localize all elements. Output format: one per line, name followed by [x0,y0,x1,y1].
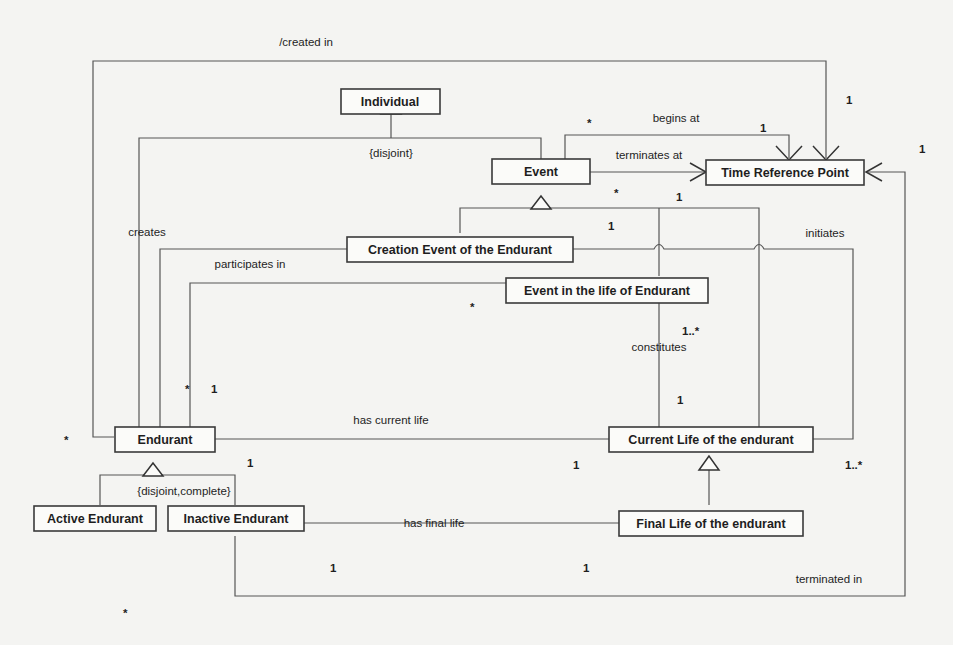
class-time-reference-point[interactable]: Time Reference Point [706,160,864,185]
label-terminated-in: terminated in [796,573,862,585]
svg-text:1: 1 [330,562,337,574]
uml-diagram: Individual Event Time Reference Point Cr… [0,0,953,645]
svg-text:Individual: Individual [361,95,419,109]
class-active-endurant[interactable]: Active Endurant [34,506,156,531]
label-has-final-life: has final life [404,517,465,529]
terminated-in-line [235,172,905,596]
svg-text:1: 1 [211,383,218,395]
participates-in-line [190,283,506,428]
svg-text:1: 1 [677,394,684,406]
svg-text:1: 1 [573,459,580,471]
svg-text:1..*: 1..* [682,325,700,337]
class-event-in-life[interactable]: Event in the life of Endurant [506,278,708,303]
initiates-line [573,245,853,440]
svg-text:Final Life of the endurant: Final Life of the endurant [636,517,786,531]
label-created-in: /created in [279,36,333,48]
svg-text:Event in the life of Endurant: Event in the life of Endurant [524,284,691,298]
label-terminates-at: terminates at [616,149,683,161]
svg-text:*: * [123,607,128,619]
svg-text:1: 1 [760,122,767,134]
svg-text:1..*: 1..* [845,459,863,471]
svg-text:Inactive Endurant: Inactive Endurant [184,512,290,526]
endurant-gen-triangle-icon [143,463,163,476]
class-endurant[interactable]: Endurant [115,427,215,452]
class-inactive-endurant[interactable]: Inactive Endurant [168,506,304,531]
svg-text:1: 1 [247,457,254,469]
svg-text:*: * [587,117,592,129]
label-begins-at: begins at [653,112,700,124]
svg-text:*: * [185,383,190,395]
label-creates: creates [128,226,166,238]
constraint-disjoint: {disjoint} [369,147,413,159]
creates-line [160,249,347,428]
class-creation-event[interactable]: Creation Event of the Endurant [347,237,573,262]
label-initiates: initiates [806,227,845,239]
svg-text:Creation Event of the Endurant: Creation Event of the Endurant [368,243,553,257]
constraint-disjoint-complete: {disjoint,complete} [137,485,230,497]
svg-text:Time Reference Point: Time Reference Point [721,166,849,180]
label-has-current-life: has current life [353,414,428,426]
svg-text:1: 1 [846,94,853,106]
svg-text:*: * [614,187,619,199]
svg-text:1: 1 [583,562,590,574]
label-participates-in: participates in [215,258,286,270]
svg-text:*: * [470,301,475,313]
svg-text:Event: Event [524,165,559,179]
class-final-life[interactable]: Final Life of the endurant [619,511,803,536]
class-individual[interactable]: Individual [341,89,440,114]
svg-text:Endurant: Endurant [138,433,194,447]
class-current-life[interactable]: Current Life of the endurant [609,427,813,452]
life-gen-triangle-icon [699,456,719,470]
label-constitutes: constitutes [632,341,687,353]
svg-text:*: * [64,434,69,446]
svg-text:Active Endurant: Active Endurant [47,512,144,526]
svg-text:1: 1 [608,220,615,232]
svg-text:1: 1 [676,191,683,203]
svg-text:Current Life of the endurant: Current Life of the endurant [628,433,794,447]
event-gen-triangle-icon [531,196,551,209]
svg-text:1: 1 [919,143,926,155]
class-event[interactable]: Event [492,159,590,184]
